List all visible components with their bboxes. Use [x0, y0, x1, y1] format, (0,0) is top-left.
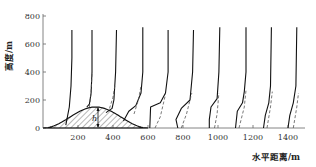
solid-profile-line — [176, 30, 194, 128]
solid-profile-line — [150, 30, 168, 128]
dashed-profile-line — [134, 86, 141, 114]
solid-profile-line — [236, 27, 247, 128]
dashed-profile-line — [181, 93, 192, 128]
y-axis-title: 高度/m — [4, 41, 14, 71]
solid-profile-line — [124, 27, 143, 121]
x-axis-title: 水平距离/m — [251, 152, 300, 162]
solid-profile-line — [209, 27, 220, 128]
h-label: h — [92, 114, 97, 123]
dashed-profile-line — [239, 90, 246, 128]
x-tick-label: 1200 — [243, 133, 263, 142]
y-tick-label: 400 — [25, 68, 40, 77]
dashed-profile-line — [155, 94, 166, 128]
x-tick-label: 1400 — [278, 133, 298, 142]
solid-profile-line — [106, 30, 117, 113]
x-tick-label: 400 — [105, 133, 120, 142]
solid-profile-line — [87, 30, 92, 107]
y-tick-label: 800 — [25, 12, 40, 21]
x-tick-label: 1000 — [208, 133, 228, 142]
solid-profile-line — [264, 27, 272, 128]
x-tick-label: 200 — [70, 133, 85, 142]
x-tick-label: 600 — [140, 133, 155, 142]
y-tick-label: 0 — [35, 124, 40, 133]
solid-profile-line — [66, 30, 72, 125]
x-tick-label: 800 — [175, 133, 190, 142]
y-tick-label: 600 — [25, 40, 40, 49]
wind-profile-chart: 0200400600800 200400600800100012001400 h… — [0, 0, 316, 167]
y-tick-label: 200 — [25, 96, 40, 105]
